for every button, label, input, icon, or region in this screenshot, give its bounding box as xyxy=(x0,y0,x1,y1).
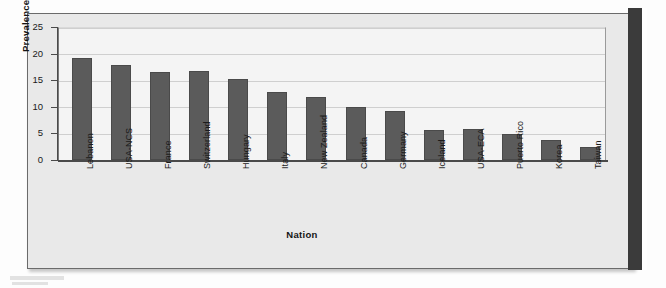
y-axis-tick xyxy=(51,54,57,55)
scan-gutter-band xyxy=(628,8,642,270)
x-axis-title: Nation xyxy=(28,229,576,240)
x-axis-tick-label: Lebanon xyxy=(85,133,95,169)
y-axis-tick-label: 15 xyxy=(3,75,43,85)
gridline xyxy=(59,81,605,82)
y-axis-tick-label: 5 xyxy=(3,128,43,138)
x-axis-tick-label: USA-ECA xyxy=(476,128,486,169)
x-axis-tick-label: Korea xyxy=(554,144,564,169)
page-edge xyxy=(642,8,647,270)
y-axis-tick xyxy=(51,107,57,108)
y-axis-tick xyxy=(51,27,57,28)
x-axis-tick-label: Germany xyxy=(398,131,408,169)
gridline xyxy=(59,28,605,29)
x-axis-tick-label: France xyxy=(163,140,173,169)
x-axis-tick-label: Taiwan xyxy=(593,140,603,169)
y-axis-tick xyxy=(51,133,57,134)
scan-smudge xyxy=(10,276,64,280)
gridline xyxy=(59,54,605,55)
y-axis-tick-label: 20 xyxy=(3,49,43,59)
x-axis-tick-label: USA-NCS xyxy=(124,128,134,169)
x-axis-tick-label: Puerto Rico xyxy=(515,121,525,169)
x-axis-tick-label: Switzerland xyxy=(202,121,212,169)
y-axis-tick xyxy=(51,80,57,81)
x-axis-tick-label: Canada xyxy=(359,137,369,169)
scan-smudge xyxy=(12,282,48,285)
x-axis-tick-label: Iceland xyxy=(437,139,447,169)
gridline xyxy=(59,107,605,108)
figure-container: Prevalence (%) 0510152025 LebanonUSA-NCS… xyxy=(27,13,634,269)
bar xyxy=(267,92,287,160)
x-axis-tick-label: Italy xyxy=(280,152,290,169)
y-axis-tick-label: 25 xyxy=(3,22,43,32)
x-axis-tick-label: New Zealand xyxy=(319,115,329,169)
y-axis-tick-label: 0 xyxy=(3,155,43,165)
page-background: Prevalence (%) 0510152025 LebanonUSA-NCS… xyxy=(0,0,666,288)
y-axis-tick-label: 10 xyxy=(3,102,43,112)
x-axis-tick-label: Hungary xyxy=(241,134,251,169)
y-axis-tick xyxy=(51,160,57,161)
